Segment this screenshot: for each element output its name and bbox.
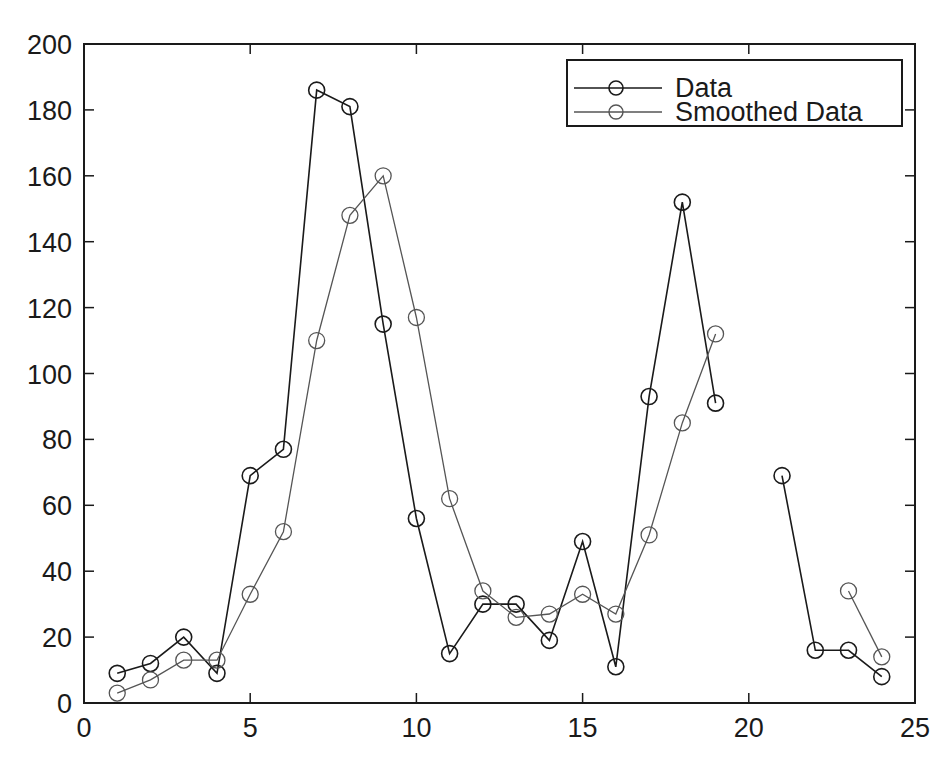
y-tick-label: 140 (27, 228, 72, 258)
y-tick-label: 20 (42, 623, 72, 653)
series-line (782, 476, 882, 677)
y-axis: 020406080100120140160180200 (27, 30, 915, 719)
y-tick-label: 160 (27, 162, 72, 192)
series-layer (109, 82, 890, 701)
series-line (849, 591, 882, 657)
y-tick-label: 0 (57, 689, 72, 719)
x-tick-label: 10 (401, 713, 431, 743)
x-tick-label: 25 (900, 713, 930, 743)
series-line (117, 176, 715, 693)
legend: Data Smoothed Data (567, 60, 902, 127)
y-tick-label: 80 (42, 425, 72, 455)
y-tick-label: 60 (42, 491, 72, 521)
x-tick-label: 0 (76, 713, 91, 743)
line-chart: 0510152025 020406080100120140160180200 D… (0, 0, 952, 770)
x-tick-label: 15 (568, 713, 598, 743)
y-tick-label: 40 (42, 557, 72, 587)
series-data (109, 82, 890, 685)
y-tick-label: 200 (27, 30, 72, 60)
y-tick-label: 120 (27, 294, 72, 324)
y-tick-label: 180 (27, 96, 72, 126)
legend-label: Smoothed Data (675, 97, 864, 127)
x-tick-label: 5 (243, 713, 258, 743)
series-line (117, 90, 715, 673)
y-tick-label: 100 (27, 360, 72, 390)
x-tick-label: 20 (734, 713, 764, 743)
data-point (841, 583, 857, 599)
data-point (708, 326, 724, 342)
x-axis: 0510152025 (76, 44, 930, 743)
